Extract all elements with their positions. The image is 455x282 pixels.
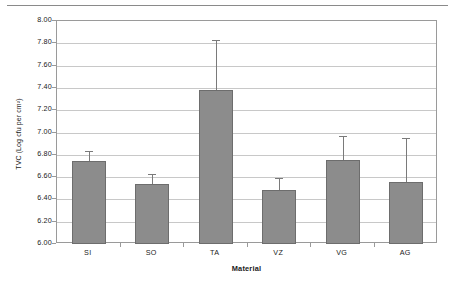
error-bar-stem-ta	[216, 40, 217, 90]
x-axis-tick-label-ta: TA	[185, 248, 245, 257]
error-bar-stem-so	[152, 174, 153, 184]
plot-area	[56, 20, 437, 243]
y-axis-tick-label: 7.20	[6, 105, 52, 113]
error-bar-cap-si	[85, 151, 93, 152]
error-bar-cap-vz	[275, 178, 283, 179]
y-axis-tick-label: 6.20	[6, 217, 52, 225]
bar-vg	[326, 160, 360, 244]
x-axis-tick-mark	[183, 243, 184, 247]
y-axis-tick-mark	[52, 132, 56, 133]
error-bar-stem-vz	[279, 178, 280, 190]
bar-ta	[199, 90, 233, 244]
y-axis-tick-label: 7.80	[6, 38, 52, 46]
y-axis-tick-mark	[52, 221, 56, 222]
bar-chart-figure: TVC (Log cfu per cm²) 8.007.807.607.407.…	[0, 0, 455, 282]
y-axis-tick-mark	[52, 42, 56, 43]
error-bar-stem-ag	[406, 138, 407, 181]
y-axis-tick-mark	[52, 198, 56, 199]
y-axis-tick-label: 7.60	[6, 61, 52, 69]
y-axis-tick-label: 7.40	[6, 83, 52, 91]
bar-ag	[389, 182, 423, 244]
gridline	[57, 43, 436, 44]
gridline	[57, 66, 436, 67]
x-axis-tick-mark	[120, 243, 121, 247]
x-axis-tick-label-vz: VZ	[248, 248, 308, 257]
x-axis-tick-label-si: SI	[58, 248, 118, 257]
error-bar-cap-ta	[212, 40, 220, 41]
page-top-rule	[7, 5, 448, 6]
y-axis-tick-mark	[52, 176, 56, 177]
y-axis-tick-labels: 8.007.807.607.407.207.006.806.606.406.20…	[0, 0, 52, 282]
gridline	[57, 110, 436, 111]
x-axis-tick-label-so: SO	[121, 248, 181, 257]
gridline	[57, 133, 436, 134]
gridline	[57, 177, 436, 178]
error-bar-stem-vg	[343, 136, 344, 161]
error-bar-stem-si	[89, 151, 90, 161]
y-axis-tick-label: 6.00	[6, 239, 52, 247]
y-axis-tick-label: 6.80	[6, 150, 52, 158]
gridline	[57, 88, 436, 89]
y-axis-tick-mark	[52, 243, 56, 244]
gridline	[57, 222, 436, 223]
x-axis-tick-mark	[310, 243, 311, 247]
y-axis-tick-mark	[52, 87, 56, 88]
bar-vz	[262, 190, 296, 244]
x-axis-tick-mark	[247, 243, 248, 247]
x-axis-title: Material	[56, 264, 437, 273]
y-axis-tick-mark	[52, 109, 56, 110]
x-axis-tick-label-vg: VG	[312, 248, 372, 257]
error-bar-cap-ag	[402, 138, 410, 139]
gridline	[57, 155, 436, 156]
bar-so	[135, 184, 169, 244]
y-axis-tick-label: 6.40	[6, 194, 52, 202]
x-axis-tick-label-ag: AG	[375, 248, 435, 257]
x-axis-tick-mark	[374, 243, 375, 247]
y-axis-tick-label: 6.60	[6, 172, 52, 180]
y-axis-tick-mark	[52, 65, 56, 66]
error-bar-cap-vg	[339, 136, 347, 137]
y-axis-tick-mark	[52, 154, 56, 155]
gridline	[57, 199, 436, 200]
y-axis-tick-label: 7.00	[6, 128, 52, 136]
error-bar-cap-so	[148, 174, 156, 175]
y-axis-tick-mark	[52, 20, 56, 21]
bar-si	[72, 161, 106, 244]
y-axis-tick-label: 8.00	[6, 16, 52, 24]
